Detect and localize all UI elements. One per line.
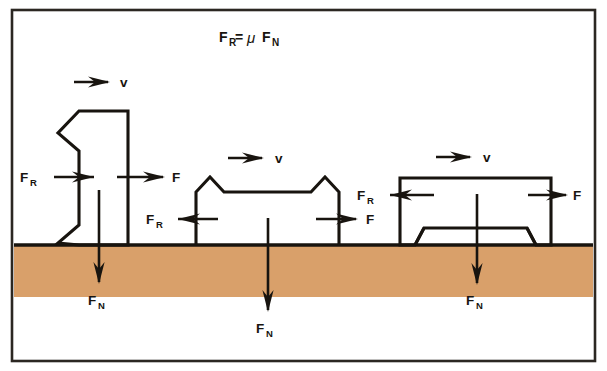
diagram-canvas: F R = μ F N v F R: [0, 0, 607, 371]
middle-friction-arrow: [178, 213, 218, 224]
right-friction-label-subscript: R: [367, 195, 374, 206]
left-velocity-arrow: [74, 76, 110, 87]
left-normal-label: F: [88, 293, 96, 308]
left-friction-label: F: [20, 170, 28, 185]
title-F-R: F: [219, 29, 228, 45]
title-F-N: F: [262, 29, 271, 45]
middle-velocity-label: v: [275, 151, 283, 166]
right-normal-label: F: [466, 293, 474, 308]
right-block-outline: [400, 178, 551, 245]
left-velocity-label: v: [120, 75, 128, 90]
middle-normal-label-subscript: N: [266, 328, 273, 339]
middle-friction-label: F: [146, 212, 154, 227]
title-formula: F R = μ F N: [219, 29, 279, 48]
left-applied-label: F: [172, 170, 180, 185]
title-equals: =: [235, 29, 243, 45]
right-friction-label: F: [357, 188, 365, 203]
left-friction-label-subscript: R: [30, 177, 37, 188]
right-left-leg-inner: [415, 228, 424, 245]
friction-diagram-figure: F R = μ F N v F R: [0, 0, 607, 371]
right-normal-label-subscript: N: [476, 300, 483, 311]
right-right-leg-inner: [527, 228, 536, 245]
left-friction-arrow: [54, 171, 94, 182]
left-applied-arrow: [117, 171, 165, 182]
right-applied-label: F: [573, 188, 581, 203]
left-normal-label-subscript: N: [98, 300, 105, 311]
right-velocity-arrow: [436, 151, 472, 162]
middle-applied-arrow: [316, 213, 358, 224]
middle-friction-label-subscript: R: [156, 219, 163, 230]
title-F-N-subscript: N: [272, 37, 279, 48]
middle-normal-label: F: [256, 321, 264, 336]
right-velocity-label: v: [483, 150, 491, 165]
right-applied-arrow: [528, 189, 568, 200]
middle-applied-label: F: [366, 212, 374, 227]
title-mu-symbol: μ: [246, 29, 255, 46]
right-friction-arrow: [390, 189, 434, 200]
middle-velocity-arrow: [228, 152, 264, 163]
